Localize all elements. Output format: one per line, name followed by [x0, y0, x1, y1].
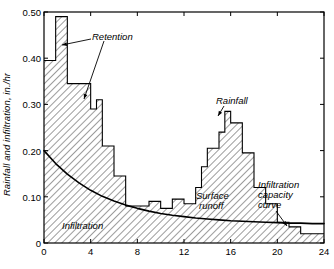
- rainfall-hyetograph-area: [44, 17, 324, 243]
- annotation-infil-capacity-line3: curve: [258, 200, 281, 211]
- plot-canvas: [0, 0, 334, 269]
- annotation-rainfall: Rainfall: [216, 96, 248, 107]
- annotation-surface-runoff-line2: runoff: [199, 201, 223, 212]
- annotation-infiltration: Infiltration: [62, 221, 103, 232]
- annotation-retention: Retention: [92, 32, 133, 43]
- chart-figure: Rainfall and infiltration, in./hr 0 0.10…: [0, 0, 334, 269]
